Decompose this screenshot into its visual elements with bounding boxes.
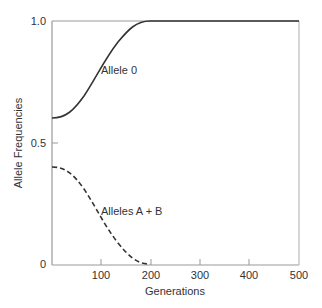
x-tick-label-300: 300 (191, 269, 209, 281)
y-tick-label-1.0: 1.0 (31, 15, 46, 27)
x-axis-label: Generations (145, 285, 205, 297)
allele-0-curve (52, 21, 299, 118)
x-tick-label-400: 400 (240, 269, 258, 281)
y-tick-label-0: 0 (40, 258, 46, 270)
x-tick-label-200: 200 (142, 269, 160, 281)
x-tick-label-100: 100 (92, 269, 110, 281)
allele-0-annotation: Allele 0 (101, 64, 137, 76)
y-axis-label: Allele Frequencies (12, 97, 24, 188)
alleles-ab-annotation: Alleles A + B (101, 205, 162, 217)
y-tick-label-0.5: 0.5 (31, 137, 46, 149)
x-tick-label-500: 500 (290, 269, 308, 281)
allele-frequency-chart: 0 0.5 1.0 100 200 300 400 500 Generation… (0, 0, 322, 308)
